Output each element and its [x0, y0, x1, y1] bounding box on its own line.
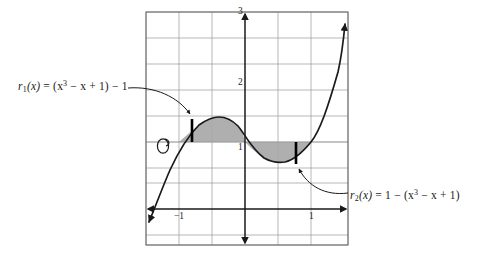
figure-container: r1(x) = (x3 − x + 1) − 1 r2(x) = 1 − (x3… [0, 0, 483, 257]
plot-svg [0, 0, 483, 257]
label-r1-equation: r1(x) = (x3 − x + 1) − 1 [18, 79, 128, 94]
y-tick-label-2: 2 [238, 77, 243, 87]
y-tick-label-1: 1 [238, 142, 243, 152]
x-tick-label-1: 1 [309, 211, 314, 221]
label-r1-argument: (x) [27, 80, 40, 92]
label-r1-remainder: − x + 1) − 1 [67, 80, 127, 92]
y-tick-label-3: 3 [238, 6, 243, 16]
label-r2-equation: r2(x) = 1 − (x3 − x + 1) [350, 188, 460, 203]
label-r1-equals: = (x [40, 80, 63, 92]
label-r2-equals: = 1 − (x [372, 189, 414, 201]
label-r2-remainder: − x + 1) [418, 189, 460, 201]
label-r2-argument: (x) [359, 189, 372, 201]
x-tick-label-minus1: −1 [174, 211, 184, 221]
